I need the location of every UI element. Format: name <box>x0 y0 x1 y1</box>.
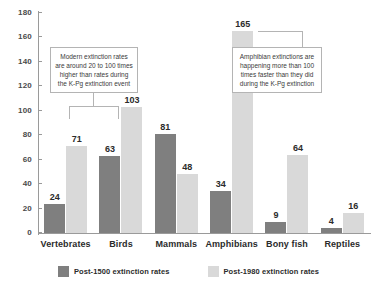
y-axis-tick-0: 0 <box>0 228 38 238</box>
plot-area: 247163103814834165964416 <box>38 13 370 233</box>
annotation-1-leader-bracket <box>69 106 119 119</box>
annotation-modern-extinction-rates: Modern extinction rates are around 20 to… <box>50 47 138 93</box>
legend-swatch <box>58 266 69 277</box>
bar-value-label: 4 <box>329 216 334 226</box>
y-axis-tick-label: 140 <box>0 57 38 67</box>
y-axis-tick-20: 20 <box>0 204 38 214</box>
y-axis-tick-label: 20 <box>0 204 38 214</box>
bar-group: 416 <box>315 13 370 233</box>
bar-post-1980: 48 <box>177 174 198 233</box>
bar-post-1500: 34 <box>210 191 231 233</box>
bar-post-1500: 81 <box>155 134 176 233</box>
bar-post-1500: 4 <box>321 228 342 233</box>
bar-pair: 964 <box>259 13 314 233</box>
extinction-rates-bar-chart: 180160140120100806040200 247163103814834… <box>0 0 377 292</box>
x-axis-label-bony-fish: Bony fish <box>259 239 314 249</box>
legend-label: Post-1980 extinction rates <box>224 267 320 276</box>
x-axis-label-amphibians: Amphibians <box>204 239 259 249</box>
y-axis-tick-100: 100 <box>0 106 38 116</box>
legend-label: Post-1500 extinction rates <box>74 267 170 276</box>
bar-group: 2471 <box>38 13 93 233</box>
bar-pair: 2471 <box>38 13 93 233</box>
bar-value-label: 103 <box>124 95 139 105</box>
annotation-1-leader-stem <box>93 93 94 106</box>
y-axis-tick-label: 120 <box>0 81 38 91</box>
bar-value-label: 165 <box>235 19 250 29</box>
y-axis-tick-140: 140 <box>0 57 38 67</box>
bar-pair: 63103 <box>93 13 148 233</box>
bar-pair: 416 <box>315 13 370 233</box>
bar-pair: 8148 <box>149 13 204 233</box>
bar-value-label: 71 <box>72 134 82 144</box>
bar-value-label: 63 <box>105 144 115 154</box>
y-axis-tick-label: 80 <box>0 130 38 140</box>
x-axis-line <box>38 233 371 234</box>
annotation-amphibian-extinctions: Amphibian extinctions are happening more… <box>232 47 322 93</box>
legend-item[interactable]: Post-1980 extinction rates <box>208 266 320 277</box>
y-axis-tick-160: 160 <box>0 32 38 42</box>
y-axis-tick-label: 60 <box>0 155 38 165</box>
y-axis-tick-80: 80 <box>0 130 38 140</box>
y-axis-tick-label: 180 <box>0 8 38 18</box>
legend-swatch <box>208 266 219 277</box>
chart-legend: Post-1500 extinction ratesPost-1980 exti… <box>0 266 377 277</box>
bar-post-1980: 103 <box>121 107 142 233</box>
annotation-2-leader-horizontal <box>258 31 303 32</box>
bar-value-label: 9 <box>273 210 278 220</box>
y-axis-tick-120: 120 <box>0 81 38 91</box>
bar-group: 34165 <box>204 13 259 233</box>
bar-value-label: 24 <box>50 192 60 202</box>
legend-item[interactable]: Post-1500 extinction rates <box>58 266 170 277</box>
bar-group: 8148 <box>149 13 204 233</box>
x-axis-label-birds: Birds <box>93 239 148 249</box>
bar-post-1980: 16 <box>343 213 364 233</box>
bar-group: 964 <box>259 13 314 233</box>
bar-post-1500: 63 <box>99 156 120 233</box>
x-axis-label-reptiles: Reptiles <box>315 239 370 249</box>
y-axis-tick-label: 160 <box>0 32 38 42</box>
annotation-2-leader-vertical <box>302 31 303 48</box>
x-axis-label-mammals: Mammals <box>149 239 204 249</box>
bar-value-label: 48 <box>182 162 192 172</box>
bar-post-1980: 64 <box>287 155 308 233</box>
y-axis-tick-label: 100 <box>0 106 38 116</box>
y-axis-tick-40: 40 <box>0 179 38 189</box>
bar-value-label: 64 <box>293 143 303 153</box>
bar-post-1500: 9 <box>265 222 286 233</box>
y-axis-tick-180: 180 <box>0 8 38 18</box>
y-axis-tick-60: 60 <box>0 155 38 165</box>
y-axis-tick-label: 0 <box>0 228 38 238</box>
x-axis-label-vertebrates: Vertebrates <box>38 239 93 249</box>
bar-post-1980: 71 <box>66 146 87 233</box>
y-axis-tick-label: 40 <box>0 179 38 189</box>
bar-pair: 34165 <box>204 13 259 233</box>
bar-group: 63103 <box>93 13 148 233</box>
bar-value-label: 34 <box>216 179 226 189</box>
bar-value-label: 81 <box>160 122 170 132</box>
bar-value-label: 16 <box>348 201 358 211</box>
bar-post-1500: 24 <box>44 204 65 233</box>
